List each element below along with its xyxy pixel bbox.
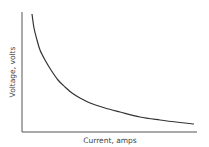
y-axis-label: Voltage, volts [8,46,17,97]
voltage-current-curve [32,14,194,124]
x-axis-label: Current, amps [83,136,137,145]
voltage-current-chart: Current, amps Voltage, volts [0,0,209,147]
